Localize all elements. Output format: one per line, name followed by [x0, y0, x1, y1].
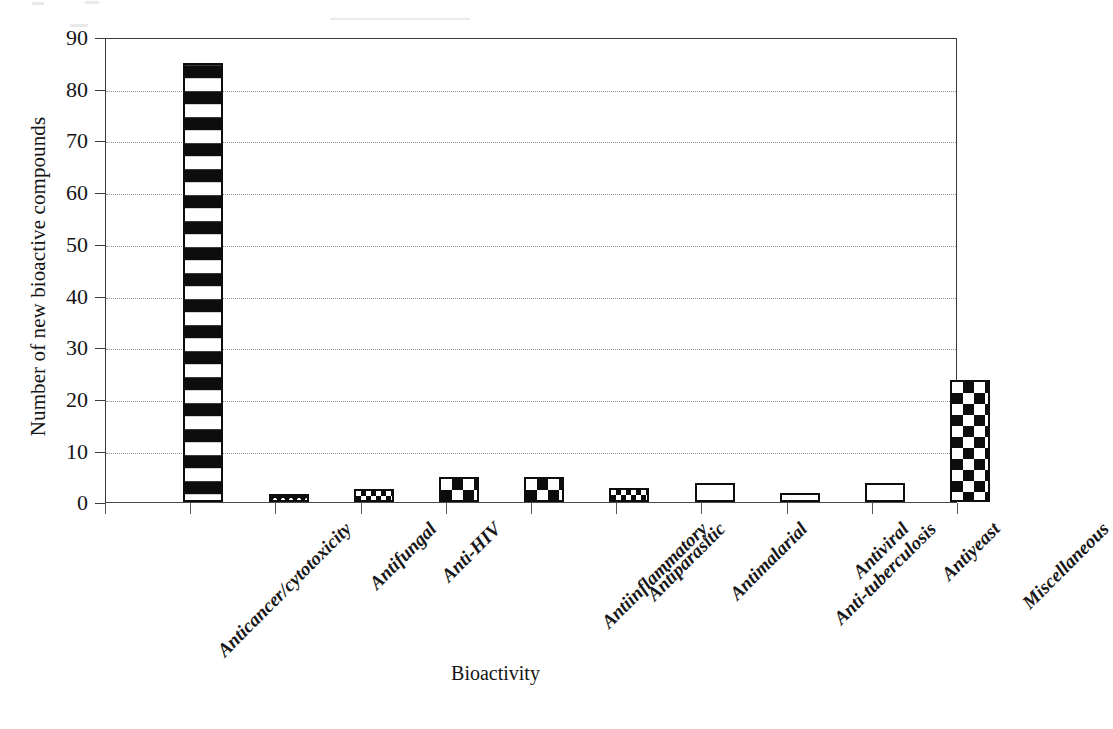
bar-miscellaneous — [950, 380, 990, 502]
plot-area — [105, 38, 957, 503]
gridline-10 — [106, 453, 956, 454]
gridline-20 — [106, 401, 956, 402]
x-tick-mark-10 — [957, 503, 958, 514]
bar-antifungal — [269, 494, 309, 502]
y-tick-label-90: 90 — [28, 27, 88, 49]
x-label-miscellaneous: Miscellaneous — [1018, 518, 1113, 613]
gridline-40 — [106, 298, 956, 299]
y-tick-label-40: 40 — [28, 286, 88, 308]
x-tick-mark-0 — [105, 503, 106, 514]
x-tick-mark-2 — [275, 503, 276, 514]
y-tick-label-80: 80 — [28, 79, 88, 101]
y-tick-label-10: 10 — [28, 441, 88, 463]
x-axis-title: Bioactivity — [0, 662, 991, 685]
gridline-70 — [106, 142, 956, 143]
x-tick-mark-7 — [701, 503, 702, 514]
gridline-50 — [106, 246, 956, 247]
x-tick-mark-6 — [616, 503, 617, 514]
gridline-60 — [106, 194, 956, 195]
y-tick-label-30: 30 — [28, 337, 88, 359]
bar-antiviral — [780, 493, 820, 502]
bar-anti-tuberculosis — [695, 483, 735, 503]
x-tick-mark-5 — [531, 503, 532, 514]
x-tick-mark-8 — [787, 503, 788, 514]
y-tick-label-70: 70 — [28, 130, 88, 152]
y-tick-label-20: 20 — [28, 389, 88, 411]
x-tick-mark-3 — [361, 503, 362, 514]
bar-antimalarial — [609, 488, 649, 502]
y-tick-label-60: 60 — [28, 182, 88, 204]
bar-anti-hiv — [354, 489, 394, 502]
x-tick-mark-9 — [872, 503, 873, 514]
gridline-30 — [106, 349, 956, 350]
x-tick-mark-4 — [446, 503, 447, 514]
bar-antiparasitic — [524, 477, 564, 502]
y-tick-label-50: 50 — [28, 234, 88, 256]
bar-antiyeast — [865, 483, 905, 503]
bar-anticancer-cytotoxicity — [183, 63, 223, 502]
gridline-80 — [106, 91, 956, 92]
x-tick-mark-1 — [190, 503, 191, 514]
y-tick-label-0: 0 — [28, 492, 88, 514]
bar-antiinflammatory — [439, 477, 479, 502]
